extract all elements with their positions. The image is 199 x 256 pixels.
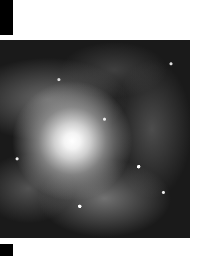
black-block-top (0, 0, 13, 35)
black-block-bottom (0, 244, 13, 256)
galaxy-image (0, 40, 190, 238)
